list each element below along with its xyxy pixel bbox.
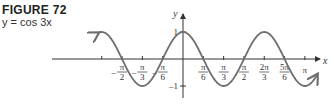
svg-text:2: 2 <box>120 72 125 82</box>
svg-text:6: 6 <box>201 72 206 82</box>
svg-text:2: 2 <box>242 72 247 82</box>
y-tick-label: –1 <box>168 81 178 91</box>
x-tick-label: π <box>303 65 308 75</box>
svg-text:6: 6 <box>160 72 165 82</box>
svg-text:–: – <box>131 67 137 77</box>
svg-text:3: 3 <box>262 72 267 82</box>
svg-text:–: – <box>111 67 117 77</box>
cosine-plot: xyπ2–π3–π6–π6π3π22π35π6π1–1 <box>0 0 334 108</box>
svg-text:3: 3 <box>140 72 145 82</box>
svg-text:π: π <box>140 62 145 72</box>
svg-text:3: 3 <box>221 72 226 82</box>
x-axis-label: x <box>322 55 328 66</box>
svg-text:π: π <box>303 65 308 75</box>
svg-text:π: π <box>221 62 226 72</box>
svg-text:6: 6 <box>282 72 287 82</box>
y-axis-label: y <box>172 8 178 19</box>
x-tick-label: 2π3 <box>259 62 269 82</box>
x-tick-label: π3 <box>219 62 229 82</box>
svg-text:2π: 2π <box>260 62 270 72</box>
